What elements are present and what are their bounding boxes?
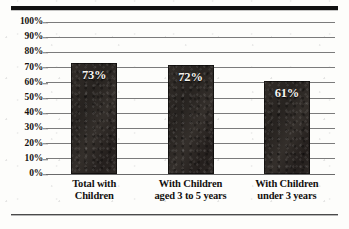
plot-area: 73%72%61%: [46, 22, 335, 174]
bar: 73%: [71, 63, 117, 174]
category-label-line: under 3 years: [239, 190, 335, 202]
x-axis-category-label: With Childrenunder 3 years: [239, 178, 335, 203]
bar-value-label: 73%: [71, 68, 117, 83]
bar: 61%: [264, 81, 310, 174]
y-axis-tick-label: 0%: [29, 169, 43, 179]
gridline: [46, 37, 335, 38]
y-axis-tick-label: 90%: [25, 32, 43, 42]
x-axis-category-label: With Childrenaged 3 to 5 years: [142, 178, 238, 203]
y-axis-tick-label: 60%: [25, 78, 43, 88]
y-axis-tick-label: 30%: [25, 124, 43, 134]
category-label-line: Total with: [46, 178, 142, 190]
y-axis-tick-label: 100%: [20, 17, 43, 27]
top-divider-rule: [11, 6, 338, 10]
gridline: [46, 52, 335, 53]
gridline: [46, 22, 335, 23]
bar-chart-figure: 0%10%20%30%40%50%60%70%80%90%100% 73%72%…: [0, 0, 349, 229]
y-axis: 0%10%20%30%40%50%60%70%80%90%100%: [0, 22, 46, 174]
x-axis-category-label: Total withChildren: [46, 178, 142, 203]
category-label-line: With Children: [142, 178, 238, 190]
y-axis-tick-label: 20%: [25, 139, 43, 149]
bottom-divider-rule: [11, 214, 338, 215]
y-axis-tick-label: 70%: [25, 63, 43, 73]
category-label-line: With Children: [239, 178, 335, 190]
y-axis-tick-label: 40%: [25, 108, 43, 118]
bar-value-label: 72%: [168, 70, 214, 85]
x-axis-category-labels: Total withChildrenWith Childrenaged 3 to…: [46, 178, 335, 212]
bar: 72%: [168, 65, 214, 174]
category-label-line: aged 3 to 5 years: [142, 190, 238, 202]
y-axis-tick-label: 50%: [25, 93, 43, 103]
y-axis-tick-label: 80%: [25, 48, 43, 58]
bar-value-label: 61%: [264, 86, 310, 101]
category-label-line: Children: [46, 190, 142, 202]
y-axis-tick-label: 10%: [25, 154, 43, 164]
